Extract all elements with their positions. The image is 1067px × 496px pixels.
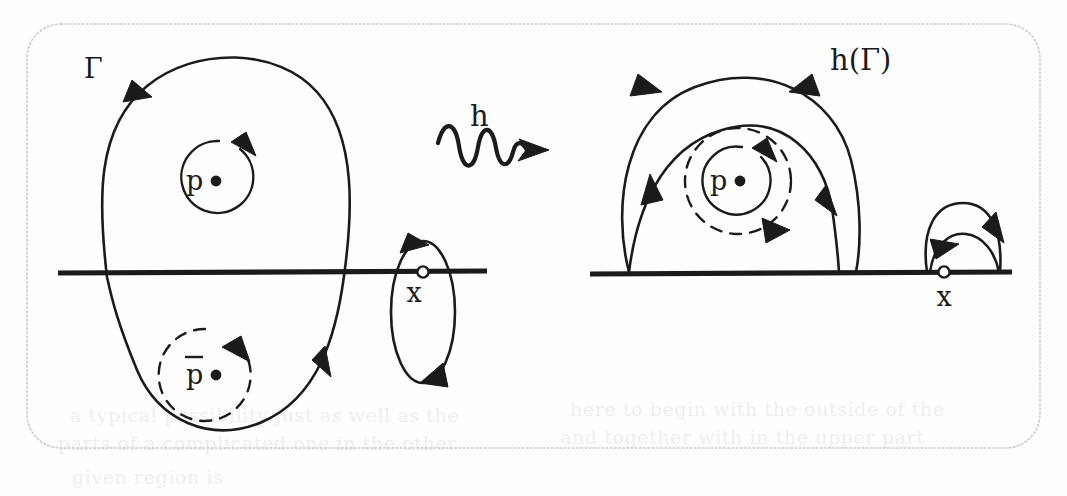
gamma-direction-arrowhead xyxy=(123,80,152,102)
hgamma-outer-right-arrowhead xyxy=(789,74,820,96)
figure-root: a typical possibility just as well as th… xyxy=(0,0,1067,496)
p-label: p xyxy=(186,165,203,196)
map-h-label: h xyxy=(470,99,489,133)
x-point-hollow-dot xyxy=(417,266,428,277)
squiggly-arrow-head xyxy=(518,139,549,161)
hgamma-outer-left-arrowhead xyxy=(630,74,662,96)
gamma-loop xyxy=(102,57,350,430)
x-outer-arc xyxy=(926,203,1001,272)
hgamma-x-label: x xyxy=(936,281,951,312)
hgamma-x-point-hollow-dot xyxy=(938,266,949,277)
gamma-label: Γ xyxy=(84,53,103,84)
hgamma-inner-right-arrowhead xyxy=(815,185,837,216)
x-loop-bottom-arrowhead xyxy=(420,363,448,387)
page-frame-border xyxy=(27,24,1040,448)
right-panel-group: p h(Γ) x xyxy=(590,43,1012,312)
x-outer-arc-arrowhead xyxy=(982,212,1004,243)
left-panel-group: Γ p p x xyxy=(58,53,487,430)
figure-canvas: Γ p p x h xyxy=(0,0,1067,496)
hgamma-p-point-dot xyxy=(735,176,746,187)
pbar-circle-arrowhead xyxy=(222,336,250,362)
hgamma-outer-arc xyxy=(622,78,859,272)
x-loop-ellipse xyxy=(391,241,455,383)
hgamma-label: h(Γ) xyxy=(830,43,891,77)
hgamma-dashed-circle-arrowhead xyxy=(762,218,790,243)
hgamma-p-label: p xyxy=(710,165,727,196)
pbar-point-dot xyxy=(211,370,222,381)
x-loop-top-arrowhead xyxy=(400,233,429,253)
pbar-label: p xyxy=(186,359,203,390)
p-point-dot xyxy=(211,176,222,187)
x-label: x xyxy=(406,277,421,308)
map-arrow-group: h xyxy=(438,99,549,166)
